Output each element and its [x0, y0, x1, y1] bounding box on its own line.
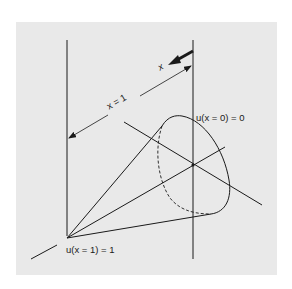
- u-at-one-label: u(x = 1) = 1: [66, 245, 115, 255]
- dimension-line: [69, 66, 191, 138]
- cone-diagram: [0, 0, 292, 289]
- cone-edge-upper: [67, 126, 162, 238]
- x-direction-arrow-icon: [168, 51, 193, 65]
- center-point: [191, 163, 194, 166]
- u-at-zero-label: u(x = 0) = 0: [196, 113, 245, 123]
- axis-extension: [31, 245, 57, 259]
